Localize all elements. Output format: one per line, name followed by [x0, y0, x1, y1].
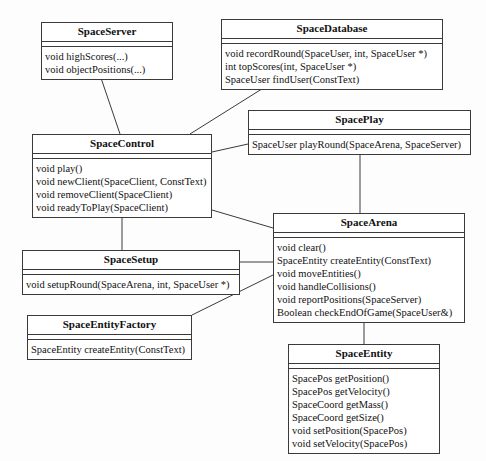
method-row: SpaceCoord getMass()	[292, 398, 436, 411]
class-methods-space-entity: SpacePos getPosition()SpacePos getVeloci…	[289, 369, 439, 453]
method-row: SpaceUser findUser(ConstText)	[225, 73, 439, 86]
relationship-control-play	[212, 144, 248, 152]
class-box-space-control[interactable]: SpaceControlvoid play()void newClient(Sp…	[32, 134, 212, 218]
class-box-space-database[interactable]: SpaceDatabasevoid recordRound(SpaceUser,…	[221, 19, 443, 90]
class-box-space-entity[interactable]: SpaceEntitySpacePos getPosition()SpacePo…	[288, 344, 440, 454]
class-box-space-setup[interactable]: SpaceSetupvoid setupRound(SpaceArena, in…	[22, 250, 240, 295]
method-row: void setVelocity(SpacePos)	[292, 437, 436, 450]
method-row: void reportPositions(SpaceServer)	[277, 293, 461, 306]
method-row: SpacePos getVelocity()	[292, 385, 436, 398]
method-row: void moveEntities()	[277, 267, 461, 280]
class-methods-space-database: void recordRound(SpaceUser, int, SpaceUs…	[222, 44, 442, 89]
class-name-space-entity-factory: SpaceEntityFactory	[28, 316, 191, 335]
method-row: SpaceEntity createEntity(ConstText)	[31, 343, 188, 356]
class-name-space-control: SpaceControl	[33, 135, 211, 154]
method-row: void highScores(...)	[45, 50, 169, 63]
method-row: void removeClient(SpaceClient)	[36, 188, 208, 201]
class-methods-space-server: void highScores(...)void objectPositions…	[42, 47, 172, 79]
class-box-space-arena[interactable]: SpaceArenavoid clear()SpaceEntity create…	[273, 213, 465, 323]
class-methods-space-entity-factory: SpaceEntity createEntity(ConstText)	[28, 340, 191, 359]
method-row: SpacePos getPosition()	[292, 372, 436, 385]
method-row: void setPosition(SpacePos)	[292, 424, 436, 437]
method-row: void handleCollisions()	[277, 280, 461, 293]
class-name-space-server: SpaceServer	[42, 23, 172, 42]
class-name-space-setup: SpaceSetup	[23, 251, 239, 270]
method-row: SpaceUser playRound(SpaceArena, SpaceSer…	[252, 138, 467, 151]
method-row: void objectPositions(...)	[45, 63, 169, 76]
relationship-server-control	[100, 75, 120, 134]
uml-diagram-canvas: SpaceServervoid highScores(...)void obje…	[0, 0, 486, 461]
method-row: void readyToPlay(SpaceClient)	[36, 201, 208, 214]
class-name-space-entity: SpaceEntity	[289, 345, 439, 364]
method-row: void newClient(SpaceClient, ConstText)	[36, 175, 208, 188]
class-name-space-database: SpaceDatabase	[222, 20, 442, 39]
class-box-space-play[interactable]: SpacePlaySpaceUser playRound(SpaceArena,…	[248, 110, 471, 155]
class-name-space-play: SpacePlay	[249, 111, 470, 130]
method-row: int topScores(int, SpaceUser *)	[225, 60, 439, 73]
class-methods-space-play: SpaceUser playRound(SpaceArena, SpaceSer…	[249, 135, 470, 154]
method-row: void setupRound(SpaceArena, int, SpaceUs…	[26, 278, 236, 291]
method-row: void play()	[36, 162, 208, 175]
class-box-space-server[interactable]: SpaceServervoid highScores(...)void obje…	[41, 22, 173, 80]
method-row: void recordRound(SpaceUser, int, SpaceUs…	[225, 47, 439, 60]
method-row: void clear()	[277, 241, 461, 254]
relationship-control-arena	[212, 210, 273, 228]
class-box-space-entity-factory[interactable]: SpaceEntityFactorySpaceEntity createEnti…	[27, 315, 192, 360]
class-methods-space-arena: void clear()SpaceEntity createEntity(Con…	[274, 238, 464, 322]
class-name-space-arena: SpaceArena	[274, 214, 464, 233]
method-row: SpaceEntity createEntity(ConstText)	[277, 254, 461, 267]
method-row: Boolean checkEndOfGame(SpaceUser&)	[277, 306, 461, 319]
method-row: SpaceCoord getSize()	[292, 411, 436, 424]
class-methods-space-control: void play()void newClient(SpaceClient, C…	[33, 159, 211, 217]
class-methods-space-setup: void setupRound(SpaceArena, int, SpaceUs…	[23, 275, 239, 294]
